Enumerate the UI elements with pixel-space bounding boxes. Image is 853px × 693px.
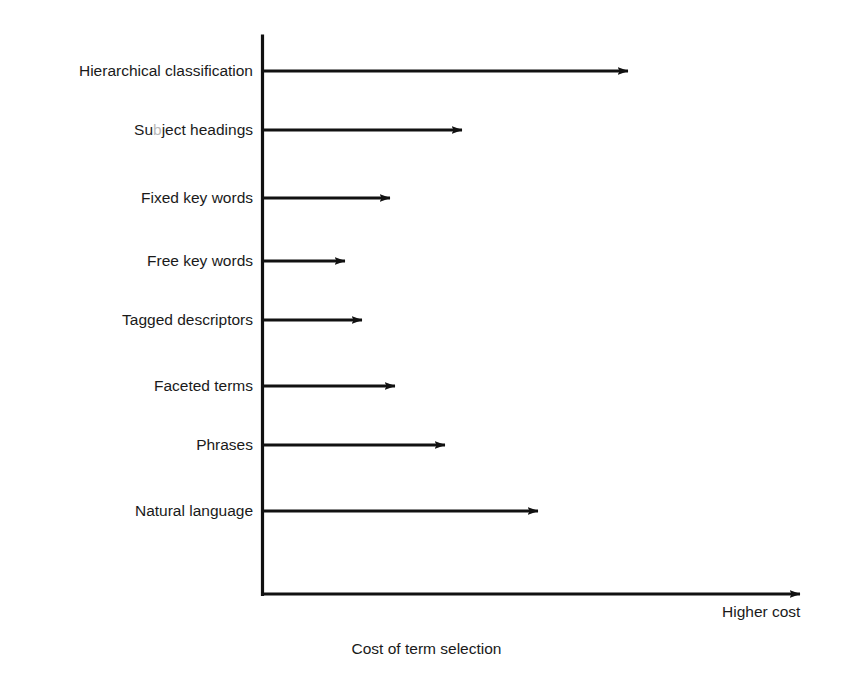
x-axis-label: Higher cost bbox=[722, 604, 800, 620]
bar-arrows-group bbox=[262, 71, 628, 511]
category-label-tagged-descriptors: Tagged descriptors bbox=[0, 312, 253, 328]
category-label-subject-headings: Subject headings bbox=[0, 122, 253, 138]
category-label-free-key-words: Free key words bbox=[0, 253, 253, 269]
category-label-faceted-terms: Faceted terms bbox=[0, 378, 253, 394]
category-label-subject-headings-prefix: Su bbox=[134, 121, 153, 138]
category-label-natural-language: Natural language bbox=[0, 503, 253, 519]
category-label-phrases: Phrases bbox=[0, 437, 253, 453]
figure-cost-of-term-selection: Hierarchical classification Subject head… bbox=[0, 0, 853, 693]
category-label-subject-headings-faint-glyph: b bbox=[153, 121, 162, 138]
figure-caption: Cost of term selection bbox=[0, 641, 853, 657]
category-label-subject-headings-suffix: ject headings bbox=[162, 121, 253, 138]
category-label-fixed-key-words: Fixed key words bbox=[0, 190, 253, 206]
category-label-hierarchical-classification: Hierarchical classification bbox=[0, 63, 253, 79]
chart-plot-area bbox=[0, 0, 853, 693]
